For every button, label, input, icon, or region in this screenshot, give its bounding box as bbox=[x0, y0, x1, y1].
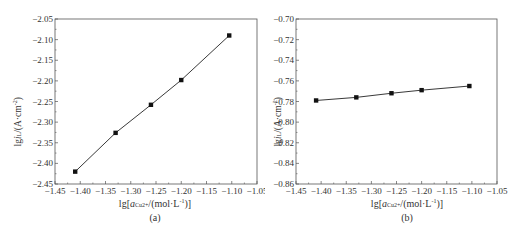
y-tick-label: −2.10 bbox=[32, 35, 53, 45]
y-tick-label: −2.15 bbox=[32, 55, 53, 65]
x-tick-label: −1.20 bbox=[171, 186, 192, 196]
x-tick-label: −1.30 bbox=[361, 186, 382, 196]
y-tick-label: −2.05 bbox=[32, 14, 53, 24]
y-tick-label: −2.45 bbox=[32, 179, 53, 189]
y-tick-label: −2.25 bbox=[32, 97, 53, 107]
y-axis-label-a: lgiL/(A·cm-2) bbox=[12, 57, 23, 147]
x-tick-label: −1.30 bbox=[120, 186, 141, 196]
y-tick-label: −0.72 bbox=[273, 35, 294, 45]
data-point-marker bbox=[227, 33, 231, 37]
y-tick-label: −0.84 bbox=[273, 158, 294, 168]
data-point-marker bbox=[389, 91, 393, 95]
x-axis-label-b: lg[aCu2+/(mol·L-1)] bbox=[352, 198, 462, 209]
x-tick-label: −1.15 bbox=[436, 186, 457, 196]
panel-caption-a: (a) bbox=[140, 212, 170, 223]
data-point-marker bbox=[354, 95, 358, 99]
y-tick-label: −0.86 bbox=[273, 179, 294, 189]
panel-caption-b: (b) bbox=[392, 212, 422, 223]
y-tick-label: −2.20 bbox=[32, 76, 53, 86]
y-tick-label: −0.70 bbox=[273, 14, 294, 24]
data-point-marker bbox=[73, 169, 77, 173]
plot-area-a: −1.45−1.40−1.35−1.30−1.25−1.20−1.15−1.10… bbox=[0, 0, 265, 231]
data-point-marker bbox=[179, 78, 183, 82]
y-tick-label: −2.30 bbox=[32, 117, 53, 127]
plot-frame bbox=[55, 19, 257, 184]
x-tick-label: −1.40 bbox=[70, 186, 91, 196]
chart-a: −1.45−1.40−1.35−1.30−1.25−1.20−1.15−1.10… bbox=[0, 0, 265, 231]
x-tick-label: −1.05 bbox=[247, 186, 265, 196]
x-tick-label: −1.35 bbox=[336, 186, 357, 196]
x-tick-label: −1.10 bbox=[461, 186, 482, 196]
data-point-marker bbox=[113, 131, 117, 135]
chart-b: −1.45−1.40−1.35−1.30−1.25−1.20−1.15−1.10… bbox=[265, 0, 531, 231]
y-axis-label-b: lgiL/(A·cm-2) bbox=[272, 57, 283, 147]
x-tick-label: −1.25 bbox=[386, 186, 407, 196]
x-tick-label: −1.25 bbox=[146, 186, 167, 196]
data-point-marker bbox=[149, 103, 153, 107]
y-tick-label: −2.35 bbox=[32, 138, 53, 148]
x-tick-label: −1.10 bbox=[221, 186, 242, 196]
data-point-marker bbox=[467, 84, 471, 88]
y-tick-label: −2.40 bbox=[32, 158, 53, 168]
x-tick-label: −1.05 bbox=[487, 186, 508, 196]
data-point-marker bbox=[419, 88, 423, 92]
plot-frame bbox=[296, 19, 497, 184]
plot-area-b: −1.45−1.40−1.35−1.30−1.25−1.20−1.15−1.10… bbox=[265, 0, 531, 231]
data-point-marker bbox=[314, 98, 318, 102]
x-tick-label: −1.15 bbox=[196, 186, 217, 196]
x-tick-label: −1.35 bbox=[95, 186, 116, 196]
x-axis-label-a: lg[aCu2+/(mol·L-1)] bbox=[100, 198, 210, 209]
x-tick-label: −1.40 bbox=[311, 186, 332, 196]
x-tick-label: −1.20 bbox=[411, 186, 432, 196]
